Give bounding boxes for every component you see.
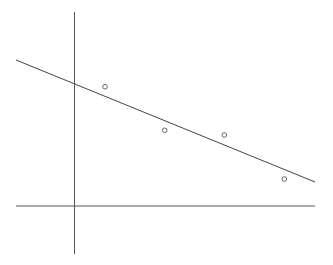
regression-line [16, 60, 315, 182]
data-point [222, 133, 227, 138]
data-point [103, 84, 108, 89]
data-point [162, 128, 167, 133]
data-point [282, 177, 287, 182]
scatter-diagram [0, 0, 333, 265]
